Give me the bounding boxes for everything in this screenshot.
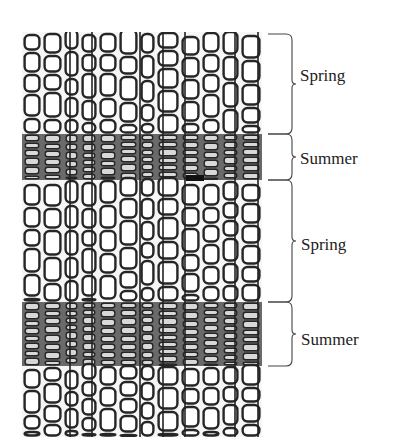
label-spring-2: Spring — [301, 236, 346, 253]
wood-cell-panel — [22, 30, 262, 437]
wood-cross-section-illustration — [0, 0, 406, 439]
label-summer-2: Summer — [301, 331, 359, 348]
brace-summer-4 — [268, 302, 296, 366]
brace-spring-1 — [268, 34, 296, 134]
brace-summer-2 — [268, 134, 296, 180]
brace-spring-3 — [268, 180, 296, 302]
wood-growth-ring-diagram: Spring Summer Spring Summer — [0, 0, 406, 439]
label-summer-1: Summer — [300, 150, 358, 167]
season-braces — [268, 34, 296, 366]
label-spring-1: Spring — [300, 67, 345, 84]
